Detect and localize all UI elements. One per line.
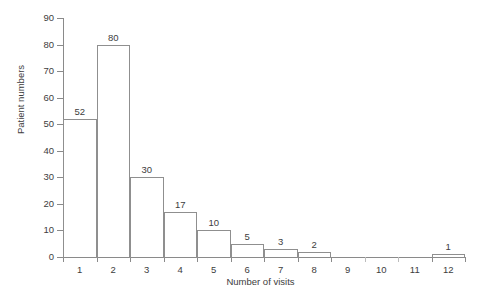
- y-tick-label-wrap: 40: [0, 151, 63, 152]
- bar-1: [63, 119, 97, 258]
- bar-7: [264, 249, 298, 258]
- bar-value-1: 52: [53, 107, 107, 117]
- y-tick-label-wrap: 0: [0, 257, 63, 258]
- bar-12: [432, 254, 466, 258]
- y-tick-label-wrap: 80: [0, 45, 63, 46]
- y-tick-label-70: 70: [8, 66, 54, 76]
- y-tick-label-wrap: 20: [0, 204, 63, 205]
- bar-8: [298, 252, 332, 258]
- y-tick-label-20: 20: [8, 199, 54, 209]
- x-tick-9: [365, 257, 366, 262]
- y-tick-label-wrap: 90: [0, 18, 63, 19]
- y-tick-label-40: 40: [8, 146, 54, 156]
- x-tick-12: [465, 257, 466, 262]
- bar-value-2: 80: [87, 33, 141, 43]
- bar-value-4: 17: [154, 200, 208, 210]
- y-tick-label-wrap: 30: [0, 177, 63, 178]
- x-axis-title-wrap: Number of visits: [0, 276, 497, 287]
- x-tick-label-12: 12: [426, 264, 472, 275]
- bar-value-5: 10: [187, 218, 241, 228]
- x-tick-8: [331, 257, 332, 262]
- bar-value-3: 30: [120, 165, 174, 175]
- bar-value-12: 1: [422, 242, 476, 252]
- histogram-chart: Patient numbers 0102030405060708090 5280…: [0, 0, 497, 297]
- bar-value-8: 2: [288, 240, 342, 250]
- y-tick-label-90: 90: [8, 13, 54, 23]
- y-tick-label-wrap: 60: [0, 98, 63, 99]
- y-tick-label-30: 30: [8, 172, 54, 182]
- y-tick-label-60: 60: [8, 93, 54, 103]
- y-tick-label-80: 80: [8, 40, 54, 50]
- bar-3: [130, 177, 164, 258]
- y-tick-label-wrap: 70: [0, 71, 63, 72]
- y-tick-label-wrap: 50: [0, 124, 63, 125]
- bar-2: [97, 45, 131, 258]
- y-tick-label-wrap: 10: [0, 230, 63, 231]
- y-tick-label-50: 50: [8, 119, 54, 129]
- x-tick-10: [398, 257, 399, 262]
- y-tick-label-0: 0: [8, 252, 54, 262]
- x-axis-title: Number of visits: [226, 276, 294, 287]
- y-tick-label-10: 10: [8, 225, 54, 235]
